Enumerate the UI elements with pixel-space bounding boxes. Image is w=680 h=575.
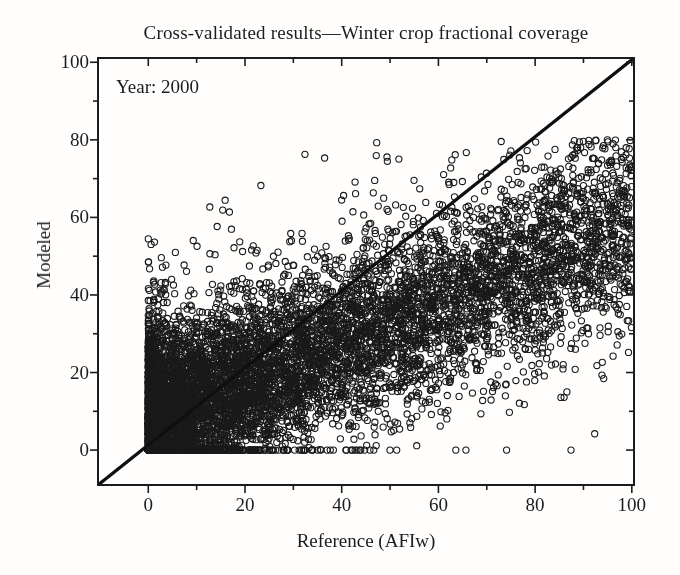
y-tick-label: 60 (70, 206, 89, 228)
year-annotation: Year: 2000 (116, 76, 199, 98)
x-axis-label: Reference (AFIw) (98, 530, 634, 552)
x-tick-label: 60 (429, 494, 448, 516)
x-tick-label: 80 (526, 494, 545, 516)
x-tick-label: 0 (144, 494, 154, 516)
y-axis-label: Modeled (33, 221, 55, 289)
y-tick-label: 0 (80, 439, 90, 461)
chart-title: Cross-validated results—Winter crop frac… (98, 22, 634, 44)
y-tick-label: 40 (70, 284, 89, 306)
plot-canvas (0, 0, 680, 575)
x-tick-label: 20 (235, 494, 254, 516)
y-tick-label: 100 (61, 51, 90, 73)
x-tick-label: 40 (332, 494, 351, 516)
scatter-plot-figure: Cross-validated results—Winter crop frac… (0, 0, 680, 575)
y-tick-label: 20 (70, 362, 89, 384)
y-tick-label: 80 (70, 129, 89, 151)
x-tick-label: 100 (618, 494, 647, 516)
